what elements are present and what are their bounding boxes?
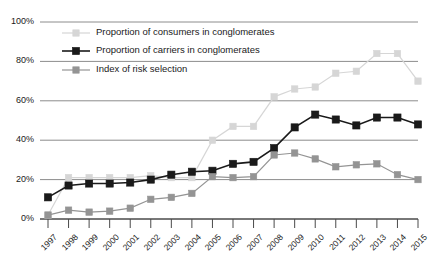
legend-item-label: Index of risk selection [96, 64, 187, 74]
data-point-marker [374, 50, 380, 56]
data-point-marker [271, 144, 278, 151]
data-point-marker [291, 86, 297, 92]
data-point-marker [414, 121, 421, 128]
legend-item-label: Proportion of consumers in conglomerates [96, 27, 274, 37]
data-point-marker [147, 176, 154, 183]
data-point-marker [415, 176, 421, 182]
data-point-marker [168, 194, 174, 200]
plot-area [0, 0, 428, 267]
data-point-marker [45, 212, 51, 218]
data-point-marker [86, 180, 93, 187]
data-point-marker [229, 160, 236, 167]
data-point-marker [168, 171, 175, 178]
data-point-marker [250, 123, 256, 129]
data-point-marker [312, 84, 318, 90]
data-point-marker [394, 50, 400, 56]
data-point-marker [230, 123, 236, 129]
y-axis-tick-label: 0% [4, 214, 34, 223]
y-axis-tick-label: 40% [4, 135, 34, 144]
data-point-marker [127, 205, 133, 211]
data-point-marker [312, 156, 318, 162]
y-axis-tick-label: 80% [4, 56, 34, 65]
data-point-marker [373, 114, 380, 121]
data-point-marker [148, 196, 154, 202]
data-point-marker [188, 168, 195, 175]
data-point-marker [127, 179, 134, 186]
data-point-marker [250, 173, 256, 179]
data-point-marker [415, 78, 421, 84]
legend-markers [62, 30, 90, 73]
data-point-marker [44, 194, 51, 201]
data-point-marker [332, 116, 339, 123]
data-point-marker [291, 150, 297, 156]
x-axis-ticks [40, 219, 418, 228]
legend-marker [73, 67, 79, 73]
data-point-marker [291, 124, 298, 131]
y-axis-tick-label: 60% [4, 96, 34, 105]
data-point-marker [353, 68, 359, 74]
data-point-marker [394, 171, 400, 177]
data-point-marker [333, 70, 339, 76]
data-point-marker [353, 162, 359, 168]
y-axis-tick-label: 20% [4, 175, 34, 184]
y-axis-tick-label: 100% [4, 17, 34, 26]
data-point-marker [209, 173, 215, 179]
line-chart: 100%80%60%40%20%0% 199719981999200020012… [0, 0, 428, 267]
data-point-marker [250, 158, 257, 165]
data-point-marker [394, 114, 401, 121]
data-point-marker [271, 94, 277, 100]
data-point-marker [86, 209, 92, 215]
legend-item-label: Proportion of carriers in conglomerates [96, 45, 260, 55]
data-point-marker [106, 208, 112, 214]
data-point-marker [230, 174, 236, 180]
data-point-marker [189, 190, 195, 196]
data-point-marker [65, 174, 71, 180]
data-point-marker [353, 122, 360, 129]
data-point-marker [65, 207, 71, 213]
legend-marker [73, 30, 79, 36]
legend-marker [72, 47, 79, 54]
data-series-layer [44, 50, 421, 218]
data-point-marker [333, 164, 339, 170]
data-point-marker [271, 152, 277, 158]
data-point-marker [374, 161, 380, 167]
data-point-marker [312, 111, 319, 118]
data-point-marker [106, 180, 113, 187]
data-point-marker [65, 182, 72, 189]
data-point-marker [209, 137, 215, 143]
series-line [48, 54, 418, 216]
